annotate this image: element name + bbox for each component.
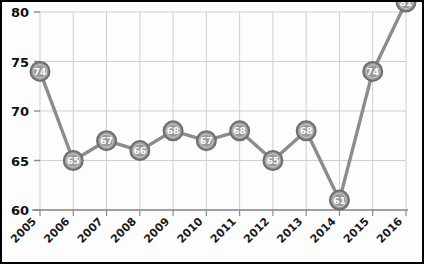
data-point-marker[interactable]: 74: [31, 62, 50, 81]
x-tick-label: 2016: [374, 215, 405, 246]
x-axis-tick-labels: 2005200620072008200920102011201220132014…: [8, 215, 405, 246]
x-tick-label: 2015: [341, 215, 372, 246]
x-tick-label: 2008: [108, 215, 139, 246]
x-tick-label: 2012: [241, 215, 272, 246]
y-tick-label: 75: [11, 55, 29, 70]
marker-value-label: 74: [366, 67, 379, 77]
marker-value-label: 68: [233, 126, 246, 136]
data-point-marker[interactable]: 61: [330, 191, 349, 210]
x-tick-label: 2013: [274, 215, 305, 246]
data-point-markers: 746567666867686568617481: [31, 2, 416, 210]
x-tick-label: 2009: [141, 215, 172, 246]
y-tick-label: 60: [11, 203, 29, 218]
marker-value-label: 61: [333, 196, 346, 206]
x-tick-label: 2005: [8, 215, 39, 246]
y-tick-label: 80: [11, 5, 29, 20]
x-tick-label: 2010: [175, 215, 206, 246]
data-point-marker[interactable]: 74: [363, 62, 382, 81]
marker-value-label: 67: [200, 136, 213, 146]
horizontal-gridlines: [40, 12, 406, 210]
marker-value-label: 65: [267, 156, 280, 166]
y-tick-label: 65: [11, 154, 29, 169]
data-point-marker[interactable]: 81: [397, 2, 416, 12]
x-tick-label: 2007: [75, 215, 106, 246]
data-point-marker[interactable]: 67: [97, 131, 116, 150]
marker-value-label: 65: [67, 156, 80, 166]
data-point-marker[interactable]: 65: [263, 151, 282, 170]
marker-value-label: 81: [400, 2, 413, 8]
y-tick-label: 70: [11, 104, 29, 119]
marker-value-label: 67: [100, 136, 113, 146]
data-point-marker[interactable]: 68: [297, 121, 316, 140]
y-axis-tick-labels: 6065707580: [11, 5, 29, 218]
x-tick-label: 2006: [42, 215, 73, 246]
x-tick-label: 2014: [308, 215, 339, 246]
data-point-marker[interactable]: 68: [230, 121, 249, 140]
x-tick-label: 2011: [208, 215, 239, 246]
marker-value-label: 66: [134, 146, 147, 156]
marker-value-label: 74: [34, 67, 47, 77]
chart-plot-area: 6065707580 20052006200720082009201020112…: [2, 2, 422, 262]
marker-value-label: 68: [167, 126, 180, 136]
x-axis-line: [32, 12, 408, 216]
data-point-marker[interactable]: 67: [197, 131, 216, 150]
line-chart: 6065707580 20052006200720082009201020112…: [0, 0, 424, 264]
data-point-marker[interactable]: 68: [164, 121, 183, 140]
series-polyline: [40, 2, 406, 200]
marker-value-label: 68: [300, 126, 313, 136]
data-line: [40, 2, 406, 200]
data-point-marker[interactable]: 66: [130, 141, 149, 160]
data-point-marker[interactable]: 65: [64, 151, 83, 170]
